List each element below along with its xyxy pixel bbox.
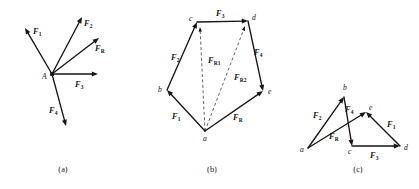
point-label-c-panel-b: c <box>189 14 193 23</box>
point-label-b-panel-b: b <box>158 85 162 94</box>
panel-b: FR1FR2F1F2F3F4FRabcde <box>158 9 272 143</box>
point-label-b-panel-c: b <box>343 83 347 92</box>
svg-text:F1: F1 <box>32 27 42 37</box>
force-label-f2-panel-c: F2 <box>312 111 322 121</box>
arrowhead-icon <box>359 112 366 117</box>
vector-f2-panel-a <box>52 17 82 74</box>
svg-text:F1: F1 <box>386 120 396 130</box>
arrowhead-icon <box>242 19 248 24</box>
panel-caption-b: (b) <box>207 165 217 174</box>
panels-layer: F1F2FRF3F4AFR1FR2F1F2F3F4FRabcdeF2F4F3F1… <box>25 9 408 161</box>
svg-text:F2: F2 <box>170 53 180 63</box>
force-label-f1-panel-b: F1 <box>171 112 181 122</box>
force-label-fr-panel-b: FR <box>232 113 244 123</box>
svg-text:FR1: FR1 <box>207 56 221 66</box>
origin-point-a: A <box>41 72 54 81</box>
vector-diagram-svg: F1F2FRF3F4AFR1FR2F1F2F3F4FRabcdeF2F4F3F1… <box>0 0 419 189</box>
force-label-f4-panel-a: F4 <box>48 106 58 116</box>
point-label-a-panel-b: a <box>203 134 207 143</box>
svg-text:FR: FR <box>328 132 340 142</box>
vector-fr-panel-b <box>205 91 263 131</box>
force-label-fr2-panel-b: FR2 <box>233 73 247 83</box>
arrowhead-icon <box>77 17 82 24</box>
captions-layer: (a)(b)(c) <box>58 165 363 174</box>
svg-text:F4: F4 <box>253 48 263 58</box>
svg-text:F3: F3 <box>74 80 84 90</box>
point-label-d-panel-c: d <box>404 143 408 152</box>
vector-f3-panel-c <box>352 144 400 149</box>
force-label-f1-panel-c: F1 <box>386 120 396 130</box>
force-label-f3-panel-a: F3 <box>74 80 84 90</box>
force-label-f4-panel-b: F4 <box>253 48 263 58</box>
arrowhead-icon <box>192 22 197 29</box>
figure-root: F1F2FRF3F4AFR1FR2F1F2F3F4FRabcdeF2F4F3F1… <box>0 0 419 189</box>
svg-text:F3: F3 <box>215 9 225 19</box>
svg-text:FR2: FR2 <box>233 73 247 83</box>
point-label-d-panel-b: d <box>252 13 256 22</box>
force-label-fr1-panel-b: FR1 <box>207 56 221 66</box>
svg-text:F2: F2 <box>312 111 322 121</box>
vector-fr-panel-a <box>52 38 99 74</box>
point-label-a-panel-c: a <box>300 145 304 154</box>
arrowhead-icon <box>242 26 245 31</box>
arrowhead-icon <box>349 139 354 146</box>
svg-text:F1: F1 <box>171 112 181 122</box>
arrowhead-icon <box>25 28 30 35</box>
arrowhead-icon <box>338 97 344 104</box>
vector-f1-panel-b <box>167 90 205 131</box>
arrowhead-icon <box>259 84 264 91</box>
arrowhead-icon <box>199 27 202 32</box>
svg-text:FR: FR <box>232 113 244 123</box>
force-label-f3-panel-c: F3 <box>369 151 379 161</box>
force-label-f2-panel-b: F2 <box>170 53 180 63</box>
svg-text:F4: F4 <box>344 105 354 115</box>
force-label-f3-panel-b: F3 <box>215 9 225 19</box>
panel-c: F2F4F3F1FRabcde <box>300 83 408 161</box>
vector-f3-panel-a <box>52 72 98 77</box>
point-label-A: A <box>41 72 47 81</box>
svg-text:F3: F3 <box>369 151 379 161</box>
point-label-e-panel-c: e <box>369 103 373 112</box>
arrowhead-icon <box>92 72 98 77</box>
force-label-f2-panel-a: F2 <box>83 19 93 29</box>
point-label-c-panel-c: c <box>348 147 352 156</box>
vector-f4-panel-a <box>52 74 67 126</box>
force-label-fr-panel-c: FR <box>328 132 340 142</box>
arrowhead-icon <box>256 91 263 97</box>
force-label-f4-panel-c: F4 <box>344 105 354 115</box>
panel-a: F1F2FRF3F4A <box>25 17 106 126</box>
dashed-vector-fr1-panel-b <box>199 27 205 131</box>
svg-text:F2: F2 <box>83 19 93 29</box>
panel-caption-c: (c) <box>353 165 363 174</box>
point-label-e-panel-b: e <box>268 87 272 96</box>
svg-text:FR: FR <box>94 44 106 54</box>
svg-text:F4: F4 <box>48 106 58 116</box>
arrowhead-icon <box>62 119 67 126</box>
force-label-f1-panel-a: F1 <box>32 27 42 37</box>
vector-f3-panel-b <box>197 19 248 24</box>
panel-caption-a: (a) <box>58 165 68 174</box>
force-label-fr-panel-a: FR <box>94 44 106 54</box>
